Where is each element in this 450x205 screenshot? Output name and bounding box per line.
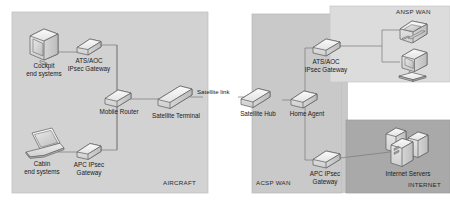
ats-aoc-air-label-line2: IPsec Gateway [58, 65, 120, 73]
zone-label-ansp-wan: ANSP WAN [396, 9, 431, 16]
apc-air-label-line1: APC IPsec [60, 161, 118, 169]
zone-label-acsp-wan: ACSP WAN [256, 180, 291, 187]
node-label-home-agent: Home Agent [280, 110, 334, 117]
node-label-internet-servers: Internet Servers [372, 170, 444, 177]
node-label-ats-aoc-gateway-gnd: ATS/AOC IPsec Gateway [295, 58, 357, 73]
zone-label-internet: INTERNET [408, 182, 441, 189]
node-label-apc-gateway-gnd: APC IPsec Gateway [297, 170, 353, 185]
ats-aoc-gnd-label-line2: IPsec Gateway [295, 66, 357, 74]
node-label-apc-gateway-air: APC IPsec Gateway [60, 161, 118, 176]
apc-air-label-line2: Gateway [60, 169, 118, 177]
node-label-satellite-hub: Satellite Hub [228, 110, 288, 117]
apc-gnd-label-line1: APC IPsec [297, 170, 353, 178]
node-label-ats-aoc-gateway-air: ATS/AOC IPsec Gateway [58, 57, 120, 72]
node-label-satellite-terminal: Satellite Terminal [140, 112, 212, 119]
ats-aoc-air-label-line1: ATS/AOC [58, 57, 120, 65]
network-diagram: Cockpit end systems Cabin end systems AT… [0, 0, 450, 205]
zone-label-aircraft: AIRCRAFT [163, 180, 196, 187]
link-label-satellite-link: Satellite link [197, 89, 230, 96]
apc-gnd-label-line2: Gateway [297, 178, 353, 186]
ats-aoc-gnd-label-line1: ATS/AOC [295, 58, 357, 66]
